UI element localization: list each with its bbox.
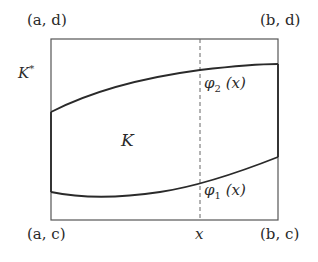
- curve-label-phi1: φ1 (x): [204, 183, 246, 201]
- curve-label-phi2: φ2 (x): [204, 76, 246, 94]
- diagram-canvas: [0, 0, 318, 262]
- corner-label-a-c: (a, c): [27, 227, 66, 242]
- region-label-k: K: [121, 132, 134, 149]
- corner-label-b-d: (b, d): [260, 13, 300, 28]
- x-axis-label: x: [195, 227, 203, 242]
- corner-label-a-d: (a, d): [27, 13, 67, 28]
- corner-label-b-c: (b, c): [260, 227, 299, 242]
- rectangle-label-k-star: K*: [18, 64, 34, 81]
